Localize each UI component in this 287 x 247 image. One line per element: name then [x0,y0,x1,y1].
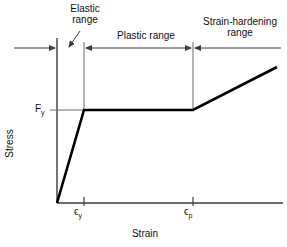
y-axis-label: Stress [4,121,15,167]
label-strain-hardening-line1: Strain-hardening [203,16,277,27]
label-strain-hardening-line2: range [227,27,253,38]
label-hardening-strain: ϵp [184,206,192,221]
stress-strain-curve [57,67,277,203]
label-elastic-range-line2: range [72,14,98,25]
label-plastic-range: Plastic range [106,30,186,41]
x-axis-label: Strain [110,228,180,239]
label-yield-stress-subscript: y [41,109,45,116]
label-elastic-range: Elastic range [62,3,108,25]
label-yield-strain: ϵy [74,206,82,221]
label-yield-stress: Fy [35,103,45,118]
label-strain-hardening-range: Strain-hardening range [196,16,284,38]
label-yield-strain-subscript: y [78,212,82,219]
leader-arrow-elastic-range [69,31,80,47]
stress-strain-figure: Elastic range Plastic range Strain-harde… [0,0,287,247]
label-elastic-range-line1: Elastic [70,3,99,14]
label-hardening-strain-subscript: p [188,212,192,219]
